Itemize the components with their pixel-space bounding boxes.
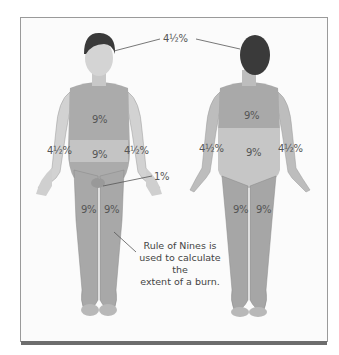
back-lower-label: 9% <box>246 147 261 158</box>
caption-line-1: Rule of Nines is <box>134 240 226 252</box>
front-right-leg-label: 9% <box>81 204 96 215</box>
head-percent-label: 4½% <box>163 33 188 44</box>
back-upper-label: 9% <box>244 110 259 121</box>
back-right-leg-label: 9% <box>256 204 271 215</box>
front-abdomen-label: 9% <box>92 149 107 160</box>
back-right-arm-label: 4½% <box>278 143 303 154</box>
front-left-leg-label: 9% <box>104 204 119 215</box>
back-left-arm-label: 4½% <box>199 143 224 154</box>
caption-line-2: used to calculate the <box>134 252 226 276</box>
front-left-arm-label: 4½% <box>124 145 149 156</box>
body-diagram <box>0 0 339 355</box>
back-left-leg-label: 9% <box>233 204 248 215</box>
genitals-label: 1% <box>154 171 169 182</box>
front-right-arm-label: 4½% <box>47 145 72 156</box>
front-chest-label: 9% <box>92 114 107 125</box>
figure-caption: Rule of Nines is used to calculate the e… <box>134 240 226 288</box>
caption-line-3: extent of a burn. <box>134 276 226 288</box>
